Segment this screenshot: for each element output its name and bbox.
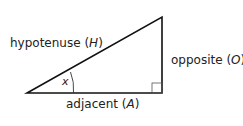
hypotenuse-label: hypotenuse (H) [10,36,103,50]
angle-x-label: x [62,75,69,88]
adjacent-label: adjacent (A) [66,97,139,111]
opposite-label: opposite (O) [171,53,243,67]
opposite-symbol: O [231,53,240,67]
hypotenuse-symbol: H [89,36,98,50]
adjacent-symbol: A [126,97,134,111]
adjacent-word: adjacent [66,97,118,111]
opposite-word: opposite [171,53,223,67]
right-triangle [27,17,162,93]
angle-arc [71,72,74,93]
hypotenuse-word: hypotenuse [10,36,81,50]
right-angle-marker [152,83,162,93]
